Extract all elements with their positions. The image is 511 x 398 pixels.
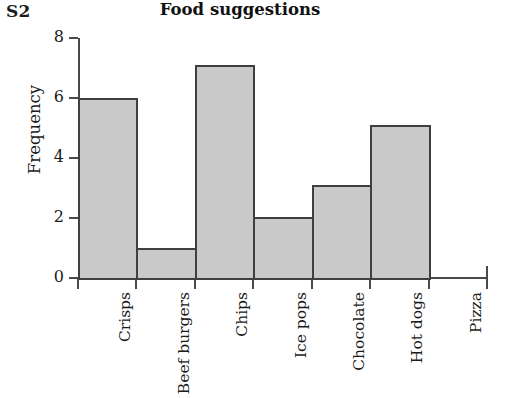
x-axis-label-chocolate: Chocolate bbox=[350, 292, 368, 398]
x-axis-label-pizza: Pizza bbox=[467, 292, 485, 398]
y-axis-tick-label: 4 bbox=[38, 149, 64, 165]
y-axis-tick-label-text: 2 bbox=[38, 209, 64, 225]
x-axis-tick bbox=[194, 279, 196, 289]
x-axis-label-hot-dogs: Hot dogs bbox=[408, 292, 426, 398]
x-axis-label-ice-pops: Ice pops bbox=[292, 292, 310, 398]
x-axis-tick bbox=[428, 279, 430, 289]
x-axis-tick bbox=[135, 279, 137, 289]
bar-hot-dogs bbox=[370, 125, 430, 280]
x-axis-label-crisps: Crisps bbox=[116, 292, 134, 398]
x-axis-label-beef-burgers: Beef burgers bbox=[175, 292, 193, 398]
x-axis-tick bbox=[77, 279, 79, 289]
bar-ice-pops bbox=[253, 217, 313, 281]
bar-crisps bbox=[78, 98, 138, 280]
y-axis-tick bbox=[69, 157, 78, 159]
y-axis-tick bbox=[69, 217, 78, 219]
x-axis-tick bbox=[369, 279, 371, 289]
y-axis-tick-label-text: 6 bbox=[38, 89, 64, 105]
bar-chips bbox=[195, 65, 255, 280]
y-axis-tick-label-text: 0 bbox=[38, 269, 64, 285]
y-axis-tick-label-text: 8 bbox=[38, 29, 64, 45]
y-axis-tick-label: 8 bbox=[38, 29, 64, 45]
y-axis-tick-label: 6 bbox=[38, 89, 64, 105]
x-axis-tick bbox=[486, 279, 488, 289]
y-axis-tick-label: 0 bbox=[38, 269, 64, 285]
bar-pizza bbox=[429, 278, 489, 280]
bar-beef-burgers bbox=[136, 248, 196, 280]
bar-chocolate bbox=[312, 185, 372, 280]
x-axis-label-chips: Chips bbox=[233, 292, 251, 398]
y-axis-tick bbox=[69, 37, 78, 39]
y-axis-title: Frequency bbox=[25, 70, 44, 190]
y-axis-tick bbox=[69, 97, 78, 99]
x-axis-tick bbox=[311, 279, 313, 289]
x-axis-tick bbox=[252, 279, 254, 289]
y-axis-tick-label: 2 bbox=[38, 209, 64, 225]
y-axis-tick-label-text: 4 bbox=[38, 149, 64, 165]
